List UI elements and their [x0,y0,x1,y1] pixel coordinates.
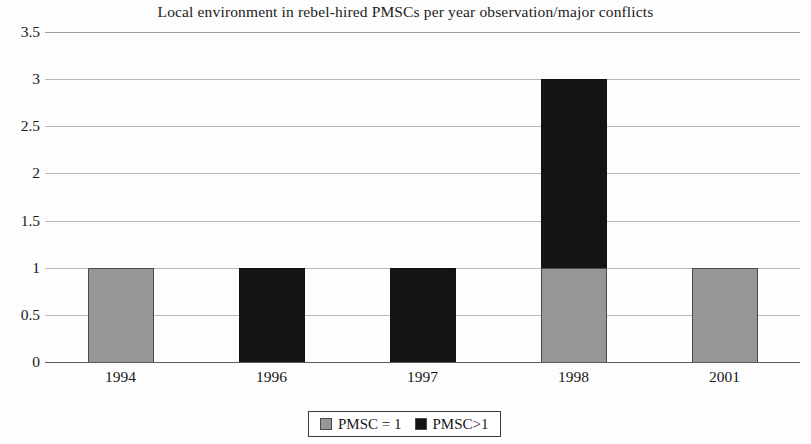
bar-column [541,79,607,362]
bar-segment [692,268,758,362]
x-axis-tick-label: 1996 [222,368,322,386]
y-axis-tick-label: 1 [0,260,40,276]
gridline [45,173,800,174]
y-axis-tick-label: 3 [0,71,40,87]
bar-column [692,268,758,362]
x-axis-tick-label: 1994 [71,368,171,386]
y-axis-tick-label: 0.5 [0,307,40,323]
legend-swatch-icon [320,418,332,430]
gridline [45,362,800,363]
bar-column [390,268,456,362]
legend-entry[interactable]: PMSC>1 [415,417,489,432]
bar-segment [390,268,456,362]
chart-title: Local environment in rebel-hired PMSCs p… [0,3,811,21]
legend-label: PMSC>1 [433,417,489,432]
legend-label: PMSC = 1 [338,417,402,432]
y-axis-tick-label: 2 [0,166,40,182]
bar-column [239,268,305,362]
bar-segment [239,268,305,362]
legend-swatch-icon [415,418,427,430]
bar-segment [541,268,607,362]
y-axis-tick-label: 2.5 [0,119,40,135]
y-axis-tick-label: 1.5 [0,213,40,229]
x-axis-tick-label: 1997 [373,368,473,386]
bar-segment [541,79,607,268]
chart-legend: PMSC = 1PMSC>1 [308,411,501,437]
legend-entry[interactable]: PMSC = 1 [320,417,402,432]
y-axis-tick-label: 3.5 [0,24,40,40]
plot-area [45,32,800,362]
gridline [45,126,800,127]
gridline [45,79,800,80]
x-axis-tick-label: 2001 [675,368,775,386]
bar-segment [88,268,154,362]
x-axis-tick-label: 1998 [524,368,624,386]
bar-column [88,268,154,362]
y-axis-tick-label: 0 [0,354,40,370]
chart-figure: Local environment in rebel-hired PMSCs p… [0,0,811,444]
gridline [45,221,800,222]
gridline [45,32,800,33]
